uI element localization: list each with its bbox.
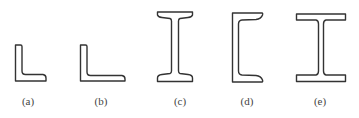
- panel-label-c: (c): [174, 95, 186, 107]
- panel-label-a: (a): [22, 95, 34, 107]
- equal-angle-section: [16, 45, 47, 81]
- panel-label-d: (d): [241, 95, 254, 107]
- channel-section: [233, 13, 263, 82]
- panel-label-b: (b): [95, 95, 108, 107]
- i-beam-section: [158, 12, 193, 82]
- h-beam-section: [297, 14, 346, 82]
- unequal-angle-section: [81, 45, 126, 81]
- panel-label-e: (e): [314, 95, 326, 107]
